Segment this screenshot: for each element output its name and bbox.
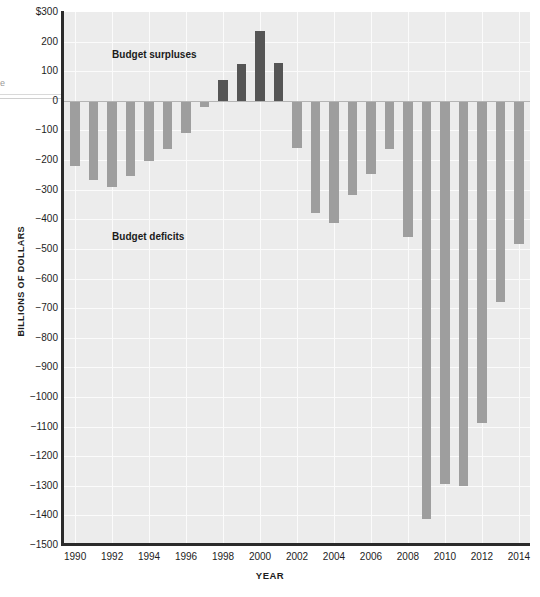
vertical-gridline <box>186 12 187 545</box>
bar-deficit <box>514 101 524 245</box>
x-tick-label: 2012 <box>471 551 493 562</box>
bar-deficit <box>459 101 469 486</box>
bar-deficit <box>422 101 432 519</box>
bar-surplus <box>255 31 265 101</box>
y-tick-label: 100 <box>2 66 58 76</box>
annotation-budget-surpluses: Budget surpluses <box>112 49 196 60</box>
y-tick-label: −200 <box>2 155 58 165</box>
x-tick-label: 2006 <box>360 551 382 562</box>
plot-inner: Budget surplusesBudget deficits <box>64 12 530 545</box>
bar-deficit <box>477 101 487 423</box>
x-tick-label: 2010 <box>434 551 456 562</box>
y-axis-spine <box>61 11 64 546</box>
y-tick-label: −500 <box>2 244 58 254</box>
bar-deficit <box>385 101 395 149</box>
bar-deficit <box>292 101 302 148</box>
y-tick-label: −400 <box>2 214 58 224</box>
chart-page: e BILLIONS OF DOLLARS $3002001000−100−20… <box>0 0 540 597</box>
vertical-gridline <box>112 12 113 545</box>
y-tick-label: −1100 <box>2 422 58 432</box>
x-tick-label: 2008 <box>397 551 419 562</box>
x-tick-label: 1992 <box>101 551 123 562</box>
vertical-gridline <box>334 12 335 545</box>
bar-surplus <box>218 80 228 100</box>
y-tick-label: −1200 <box>2 451 58 461</box>
vertical-gridline <box>297 12 298 545</box>
bar-deficit <box>311 101 321 213</box>
y-tick-label: −1400 <box>2 510 58 520</box>
x-axis-title: YEAR <box>0 570 540 581</box>
x-tick-label: 1996 <box>175 551 197 562</box>
bar-deficit <box>89 101 99 181</box>
bar-deficit <box>70 101 80 166</box>
y-tick-label: −100 <box>2 125 58 135</box>
y-tick-label: 200 <box>2 37 58 47</box>
bar-deficit <box>107 101 117 187</box>
y-tick-label: −800 <box>2 333 58 343</box>
vertical-gridline <box>371 12 372 545</box>
y-tick-label: −1000 <box>2 392 58 402</box>
y-tick-label: −1300 <box>2 481 58 491</box>
bar-deficit <box>403 101 413 237</box>
annotation-budget-deficits: Budget deficits <box>112 231 184 242</box>
x-tick-label: 2000 <box>249 551 271 562</box>
bar-deficit <box>163 101 173 150</box>
plot-area: Budget surplusesBudget deficits <box>64 12 530 545</box>
vertical-gridline <box>519 12 520 545</box>
y-tick-label: 0 <box>2 96 58 106</box>
bar-surplus <box>274 63 284 101</box>
bar-deficit <box>144 101 154 161</box>
vertical-gridline <box>408 12 409 545</box>
x-tick-label: 1994 <box>138 551 160 562</box>
bar-surplus <box>237 64 247 101</box>
bar-deficit <box>440 101 450 484</box>
x-tick-label: 1998 <box>212 551 234 562</box>
x-tick-label: 2014 <box>508 551 530 562</box>
y-tick-label: $300 <box>2 7 58 17</box>
x-tick-label: 2002 <box>286 551 308 562</box>
x-axis-spine <box>61 543 530 546</box>
vertical-gridline <box>149 12 150 545</box>
bar-deficit <box>126 101 136 177</box>
vertical-gridline <box>75 12 76 545</box>
y-tick-label: −300 <box>2 185 58 195</box>
x-tick-label: 2004 <box>323 551 345 562</box>
bar-deficit <box>496 101 506 302</box>
bar-deficit <box>329 101 339 223</box>
y-tick-label: −600 <box>2 274 58 284</box>
y-axis-tick-labels: $3002001000−100−200−300−400−500−600−700−… <box>0 0 58 597</box>
y-tick-label: −900 <box>2 362 58 372</box>
bar-deficit <box>366 101 376 174</box>
y-tick-label: −1500 <box>2 540 58 550</box>
x-axis-tick-labels: 1990199219941996199820002002200420062008… <box>0 551 540 567</box>
bar-deficit <box>181 101 191 133</box>
y-tick-label: −700 <box>2 303 58 313</box>
x-tick-label: 1990 <box>64 551 86 562</box>
zero-line <box>64 101 530 102</box>
bar-deficit <box>348 101 358 195</box>
